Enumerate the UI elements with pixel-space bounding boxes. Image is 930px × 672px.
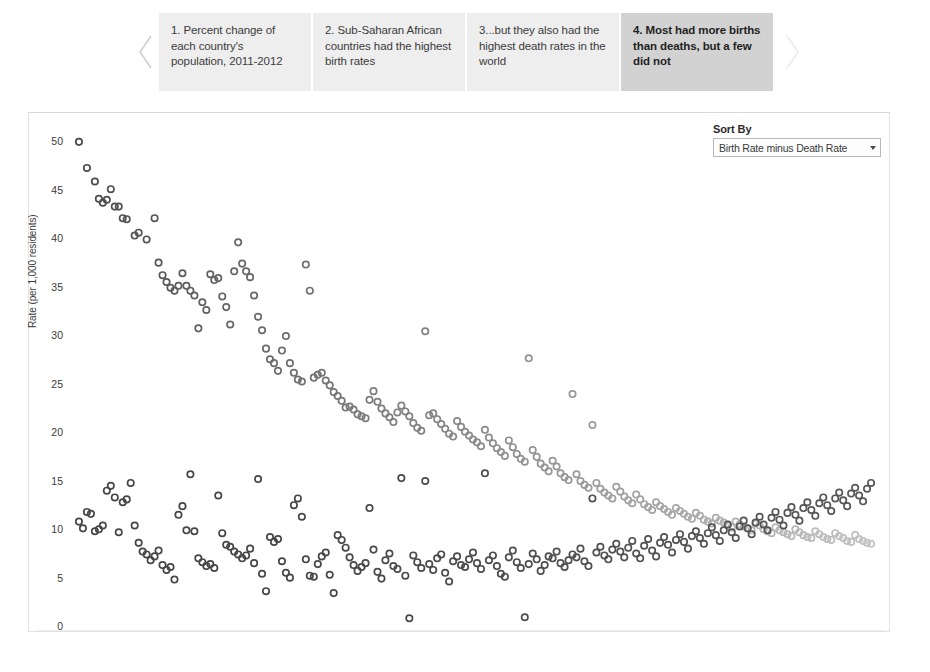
scatter-point[interactable] (645, 536, 651, 542)
scatter-point[interactable] (279, 347, 285, 353)
scatter-point[interactable] (199, 299, 205, 305)
scatter-point[interactable] (327, 382, 333, 388)
scatter-point[interactable] (159, 272, 165, 278)
scatter-point[interactable] (848, 539, 854, 545)
scatter-point[interactable] (131, 522, 137, 528)
story-tab-2[interactable]: 2. Sub-Saharan African countries had the… (313, 13, 465, 91)
scatter-point[interactable] (569, 391, 575, 397)
scatter-point[interactable] (494, 563, 500, 569)
scatter-point[interactable] (327, 572, 333, 578)
scatter-point[interactable] (116, 529, 122, 535)
story-tab-3[interactable]: 3...but they also had the highest death … (467, 13, 619, 91)
scatter-point[interactable] (534, 454, 540, 460)
scatter-point[interactable] (681, 539, 687, 545)
scatter-point[interactable] (263, 588, 269, 594)
scatter-point[interactable] (219, 293, 225, 299)
scatter-point[interactable] (251, 292, 257, 298)
scatter-point[interactable] (844, 503, 850, 509)
scatter-point[interactable] (255, 314, 261, 320)
scatter-point[interactable] (597, 544, 603, 550)
scatter-point[interactable] (506, 437, 512, 443)
scatter-point[interactable] (641, 543, 647, 549)
scatter-point[interactable] (573, 471, 579, 477)
scatter-point[interactable] (836, 489, 842, 495)
scatter-point[interactable] (637, 555, 643, 561)
scatter-point[interactable] (112, 494, 118, 500)
scatter-point[interactable] (510, 444, 516, 450)
scatter-point[interactable] (613, 541, 619, 547)
scatter-point[interactable] (390, 419, 396, 425)
scatter-point[interactable] (868, 480, 874, 486)
scatter-point[interactable] (482, 427, 488, 433)
scatter-point[interactable] (179, 270, 185, 276)
scatter-point[interactable] (271, 360, 277, 366)
scatter-point[interactable] (283, 333, 289, 339)
scatter-point[interactable] (251, 560, 257, 566)
scatter-point[interactable] (303, 556, 309, 562)
scatter-point[interactable] (307, 287, 313, 293)
scatter-point[interactable] (780, 522, 786, 528)
story-tab-1[interactable]: 1. Percent change of each country's popu… (159, 13, 311, 91)
scatter-point[interactable] (490, 552, 496, 558)
scatter-point[interactable] (386, 550, 392, 556)
scatter-point[interactable] (561, 564, 567, 570)
scatter-point[interactable] (522, 614, 528, 620)
scatter-point[interactable] (804, 499, 810, 505)
scatter-point[interactable] (151, 215, 157, 221)
scatter-point[interactable] (518, 565, 524, 571)
scatter-point[interactable] (100, 522, 106, 528)
scatter-point[interactable] (84, 165, 90, 171)
scatter-point[interactable] (577, 545, 583, 551)
carousel-prev-button[interactable] (133, 12, 159, 92)
scatter-point[interactable] (247, 545, 253, 551)
scatter-point[interactable] (175, 283, 181, 289)
scatter-point[interactable] (191, 528, 197, 534)
scatter-point[interactable] (808, 535, 814, 541)
scatter-point[interactable] (291, 502, 297, 508)
scatter-point[interactable] (366, 505, 372, 511)
scatter-point[interactable] (239, 260, 245, 266)
scatter-point[interactable] (247, 274, 253, 280)
scatter-point[interactable] (179, 503, 185, 509)
scatter-point[interactable] (410, 552, 416, 558)
scatter-point[interactable] (155, 259, 161, 265)
scatter-point[interactable] (545, 468, 551, 474)
scatter-point[interactable] (470, 549, 476, 555)
scatter-point[interactable] (143, 236, 149, 242)
scatter-point[interactable] (295, 495, 301, 501)
scatter-point[interactable] (502, 453, 508, 459)
scatter-point[interactable] (211, 565, 217, 571)
scatter-point[interactable] (589, 422, 595, 428)
scatter-point[interactable] (868, 541, 874, 547)
scatter-point[interactable] (506, 554, 512, 560)
scatter-point[interactable] (553, 548, 559, 554)
scatter-point[interactable] (378, 575, 384, 581)
scatter-point[interactable] (370, 388, 376, 394)
scatter-point[interactable] (820, 494, 826, 500)
scatter-point[interactable] (275, 368, 281, 374)
scatter-point[interactable] (418, 565, 424, 571)
scatter-point[interactable] (362, 560, 368, 566)
scatter-point[interactable] (291, 370, 297, 376)
scatter-point[interactable] (323, 549, 329, 555)
story-tab-4[interactable]: 4. Most had more births than deaths, but… (621, 13, 773, 91)
scatter-point[interactable] (454, 553, 460, 559)
scatter-point[interactable] (76, 139, 82, 145)
scatter-point[interactable] (76, 518, 82, 524)
scatter-point[interactable] (235, 239, 241, 245)
scatter-point[interactable] (171, 576, 177, 582)
scatter-point[interactable] (665, 542, 671, 548)
scatter-point[interactable] (255, 476, 261, 482)
scatter-point[interactable] (382, 557, 388, 563)
scatter-point[interactable] (860, 498, 866, 504)
scatter-point[interactable] (331, 590, 337, 596)
scatter-point[interactable] (677, 531, 683, 537)
scatter-point[interactable] (92, 178, 98, 184)
scatter-point[interactable] (338, 398, 344, 404)
scatter-point[interactable] (772, 509, 778, 515)
scatter-point[interactable] (422, 478, 428, 484)
scatter-point[interactable] (259, 327, 265, 333)
scatter-point[interactable] (585, 563, 591, 569)
scatter-point[interactable] (219, 530, 225, 536)
scatter-point[interactable] (510, 547, 516, 553)
